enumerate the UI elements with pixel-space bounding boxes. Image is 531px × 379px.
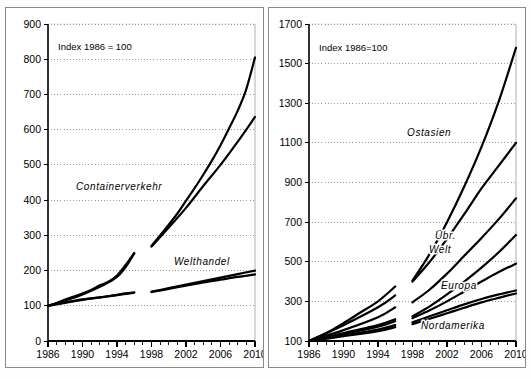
chart-panel-right: 1003005007009001100130015001700 19861990… — [268, 7, 526, 368]
y-tick-label: 400 — [23, 194, 41, 206]
series-label-nordamerika: Nordamerika — [421, 320, 485, 331]
y-tick-label: 100 — [284, 335, 302, 347]
series-label-ostasien: Ostasien — [407, 127, 451, 138]
y-tick-label: 700 — [23, 88, 41, 100]
x-tick-label: 1990 — [71, 348, 95, 360]
right-index-annotation: Index 1986=100 — [319, 42, 387, 53]
x-tick-label: 2002 — [435, 348, 459, 360]
y-tick-label: 500 — [284, 255, 302, 267]
series-label-containerverkehr: Containerverkehr — [76, 181, 162, 192]
x-tick-label: 1998 — [140, 348, 164, 360]
y-tick-label: 1500 — [279, 57, 303, 69]
left-chart-svg: 0100200300400500600700800900 19861990199… — [6, 8, 263, 367]
series-label-uebrige-2: Welt — [429, 244, 452, 255]
x-tick-label: 1986 — [297, 348, 321, 360]
x-tick-label: 2006 — [209, 348, 233, 360]
right-x-tick-labels: 1986199019941998200220062010 — [297, 348, 525, 360]
y-tick-label: 1300 — [279, 97, 303, 109]
y-tick-label: 900 — [284, 176, 302, 188]
x-tick-label: 1986 — [36, 348, 60, 360]
x-tick-label: 1998 — [401, 348, 425, 360]
left-chart-canvas: 0100200300400500600700800900 19861990199… — [6, 8, 263, 367]
right-series-lines — [309, 48, 516, 341]
y-tick-label: 800 — [23, 53, 41, 65]
series-line — [152, 57, 256, 245]
chart-panel-left: 0100200300400500600700800900 19861990199… — [5, 7, 264, 368]
right-chart-svg: 1003005007009001100130015001700 19861990… — [269, 8, 525, 367]
series-label-welthandel: Welthandel — [174, 256, 230, 267]
y-tick-label: 300 — [23, 229, 41, 241]
y-tick-label: 1100 — [279, 136, 302, 148]
x-tick-label: 1994 — [105, 348, 129, 360]
y-tick-label: 0 — [35, 335, 41, 347]
x-tick-label: 2006 — [470, 348, 494, 360]
y-tick-label: 600 — [23, 123, 41, 135]
x-tick-label: 2010 — [504, 348, 525, 360]
series-line — [48, 293, 134, 306]
series-line — [413, 143, 517, 282]
y-tick-label: 900 — [23, 18, 41, 30]
x-tick-label: 2010 — [243, 348, 263, 360]
y-tick-label: 1700 — [279, 18, 303, 30]
y-tick-label: 700 — [284, 216, 302, 228]
y-tick-label: 200 — [23, 264, 41, 276]
series-label-europa: Europa — [441, 280, 477, 291]
right-y-tick-labels: 1003005007009001100130015001700 — [279, 18, 303, 347]
series-label-uebrige-1: Übr. — [435, 230, 456, 241]
series-line — [152, 274, 256, 292]
y-tick-label: 500 — [23, 158, 41, 170]
right-chart-canvas: 1003005007009001100130015001700 19861990… — [269, 8, 525, 367]
left-x-tick-labels: 1986199019941998200220062010 — [36, 348, 263, 360]
x-tick-label: 2002 — [174, 348, 198, 360]
left-y-tick-labels: 0100200300400500600700800900 — [23, 18, 41, 347]
x-tick-label: 1994 — [366, 348, 390, 360]
y-tick-label: 100 — [23, 299, 41, 311]
figure-page: 0100200300400500600700800900 19861990199… — [0, 0, 531, 379]
y-tick-label: 300 — [284, 295, 302, 307]
left-index-annotation: Index 1986 = 100 — [58, 41, 132, 52]
x-tick-label: 1990 — [332, 348, 356, 360]
